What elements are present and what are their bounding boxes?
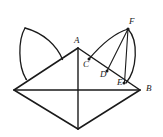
rhombus-diagonals <box>14 48 140 129</box>
left-petal-upper-arc <box>25 28 63 60</box>
edge-left-upper <box>14 48 78 90</box>
marked-points <box>88 27 130 84</box>
vertex-label-C: C <box>83 60 89 69</box>
vertex-label-B: B <box>146 84 152 93</box>
chord-F-D <box>107 29 128 71</box>
vertex-label-F: F <box>129 17 135 26</box>
vertex-label-D: D <box>100 70 107 79</box>
vertex-label-A: A <box>74 36 80 45</box>
rhombus-outline <box>14 48 140 129</box>
vertex-label-E: E <box>117 78 123 87</box>
point-F <box>126 27 129 30</box>
left-petal-outer-arc <box>20 28 26 79</box>
figure-canvas <box>0 0 163 137</box>
left-petal-lower-arc <box>26 79 27 80</box>
right-petal <box>89 29 135 83</box>
edge-right-upper <box>78 48 140 90</box>
right-petal-left-arc <box>89 29 128 59</box>
chord-F-E <box>125 29 129 83</box>
edge-left-lower <box>14 90 78 129</box>
geometry-figure: A B C D E F <box>0 0 163 137</box>
edge-right-lower <box>78 90 140 129</box>
